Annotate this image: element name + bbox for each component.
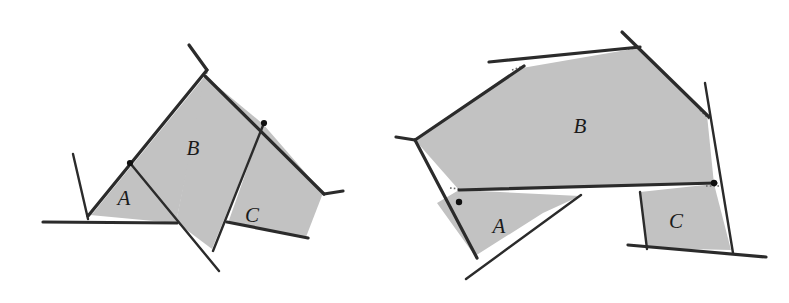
region-c-shape (640, 184, 731, 250)
region-label-a: A (116, 186, 131, 210)
region-label-c: C (669, 209, 684, 233)
left-edge-c-right-extension (324, 191, 343, 194)
right-dot-c (711, 180, 717, 186)
dissection-diagram: ABCABC (0, 0, 789, 303)
left-dot-a (127, 160, 133, 166)
region-label-c: C (245, 203, 260, 227)
figure-canvas: ABCABC Two polygon dissection diagrams T… (0, 0, 789, 303)
right-dot-a (456, 199, 462, 205)
region-label-a: A (491, 214, 506, 238)
left-figure: ABC (43, 45, 343, 271)
left-edge-short-left-cut (73, 154, 88, 219)
left-edge-apex-extension (189, 45, 207, 70)
right-figure: ABC (396, 32, 766, 279)
right-edge-left-extension (396, 137, 415, 140)
left-edge-baseline (43, 222, 177, 223)
region-label-b: B (574, 114, 587, 138)
left-dot-c (261, 120, 267, 126)
region-label-b: B (187, 136, 200, 160)
region-b-shape (415, 48, 714, 190)
